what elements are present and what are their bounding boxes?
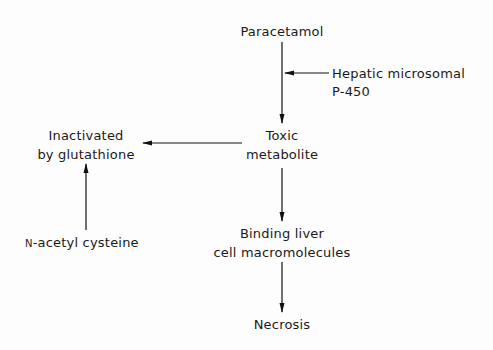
nac-prefix: N <box>25 238 33 249</box>
node-toxic-metabolite: Toxic metabolite <box>246 126 318 164</box>
node-inactivated-by-glutathione: Inactivated by glutathione <box>37 126 134 164</box>
node-hepatic-microsomal: Hepatic microsomal P-450 <box>332 64 465 101</box>
hepatic-line2: P-450 <box>332 82 465 101</box>
inactivated-line1: Inactivated <box>37 126 134 145</box>
node-necrosis: Necrosis <box>254 315 311 334</box>
binding-line1: Binding liver <box>213 224 350 243</box>
toxic-line1: Toxic <box>246 126 318 145</box>
node-binding-liver-cell-macromolecules: Binding liver cell macromolecules <box>213 224 350 262</box>
toxic-line2: metabolite <box>246 145 318 164</box>
diagram-canvas: Paracetamol Hepatic microsomal P-450 Tox… <box>0 0 493 350</box>
node-paracetamol: Paracetamol <box>240 22 323 41</box>
arrows-layer <box>0 0 493 350</box>
hepatic-line1: Hepatic microsomal <box>332 64 465 83</box>
nac-rest: -acetyl cysteine <box>33 235 139 250</box>
inactivated-line2: by glutathione <box>37 145 134 164</box>
binding-line2: cell macromolecules <box>213 243 350 262</box>
node-n-acetyl-cysteine: N-acetyl cysteine <box>25 233 139 253</box>
